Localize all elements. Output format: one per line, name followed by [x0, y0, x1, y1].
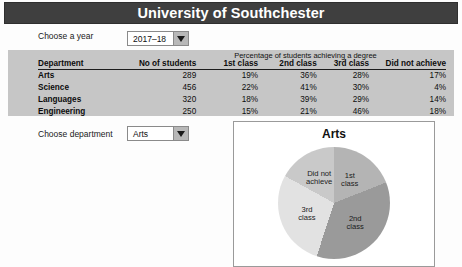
cell-third-class: 46% — [317, 105, 369, 117]
cell-second-class: 36% — [258, 70, 317, 82]
column-header-students: No of students — [112, 59, 196, 70]
choose-year-label: Choose a year — [38, 31, 93, 41]
cell-first-class: 19% — [196, 70, 258, 82]
cell-second-class: 39% — [258, 94, 317, 106]
department-select-value: Arts — [128, 127, 173, 140]
table-row: Arts 289 19% 36% 28% 17% — [38, 70, 446, 82]
cell-first-class: 15% — [196, 105, 258, 117]
cell-did-not-achieve: 14% — [369, 94, 446, 106]
chevron-down-icon[interactable] — [173, 32, 188, 45]
results-table-block: Percentage of students achieving a degre… — [8, 50, 454, 116]
page-title: University of Southchester — [137, 5, 324, 21]
cell-did-not-achieve: 18% — [369, 105, 446, 117]
cell-did-not-achieve: 17% — [369, 70, 446, 82]
application-window: University of Southchester Choose a year… — [0, 0, 462, 267]
cell-third-class: 30% — [317, 82, 369, 94]
table-row: Science 456 22% 41% 30% 4% — [38, 82, 446, 94]
cell-students: 320 — [112, 94, 196, 106]
cell-first-class: 22% — [196, 82, 258, 94]
chevron-down-icon[interactable] — [173, 127, 188, 140]
year-chooser-row: Choose a year — [0, 27, 462, 49]
cell-second-class: 41% — [258, 82, 317, 94]
chart-title: Arts — [234, 127, 434, 141]
pie-graphic — [278, 147, 390, 259]
cell-department: Languages — [38, 94, 112, 106]
cell-third-class: 29% — [317, 94, 369, 106]
table-row: Engineering 250 15% 21% 46% 18% — [38, 105, 446, 117]
column-header-department: Department — [38, 59, 112, 70]
choose-department-label: Choose department — [38, 129, 113, 139]
department-select[interactable]: Arts — [127, 126, 189, 141]
year-select-value: 2017–18 — [128, 32, 173, 45]
results-table: Department No of students 1st class 2nd … — [38, 59, 446, 117]
column-header-first-class: 1st class — [196, 59, 258, 70]
table-row: Languages 320 18% 39% 29% 14% — [38, 94, 446, 106]
cell-department: Science — [38, 82, 112, 94]
pie-chart: 1st class2nd class3rd classDid not achie… — [278, 147, 390, 259]
column-header-second-class: 2nd class — [258, 59, 317, 70]
pie-chart-panel: Arts 1st class2nd class3rd classDid not … — [233, 121, 435, 267]
app-title-bar: University of Southchester — [4, 2, 458, 24]
cell-students: 289 — [112, 70, 196, 82]
cell-third-class: 28% — [317, 70, 369, 82]
column-header-third-class: 3rd class — [317, 59, 369, 70]
column-header-did-not-achieve: Did not achieve — [369, 59, 446, 70]
table-body: Arts 289 19% 36% 28% 17% Science 456 22%… — [38, 70, 446, 118]
cell-first-class: 18% — [196, 94, 258, 106]
cell-department: Arts — [38, 70, 112, 82]
cell-second-class: 21% — [258, 105, 317, 117]
cell-students: 456 — [112, 82, 196, 94]
cell-did-not-achieve: 4% — [369, 82, 446, 94]
cell-department: Engineering — [38, 105, 112, 117]
cell-students: 250 — [112, 105, 196, 117]
year-select[interactable]: 2017–18 — [127, 31, 189, 46]
table-header-row: Department No of students 1st class 2nd … — [38, 59, 446, 70]
